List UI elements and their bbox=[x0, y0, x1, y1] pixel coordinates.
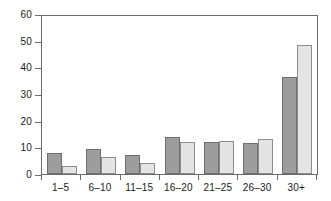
bar-group bbox=[243, 16, 273, 174]
y-axis-label-group: 0102030405060 bbox=[0, 0, 38, 201]
x-axis-tick-mark bbox=[41, 175, 42, 180]
y-axis-tick-label: 20 bbox=[20, 117, 32, 127]
y-axis-tick-label: 0 bbox=[26, 170, 32, 180]
bar-series-1 bbox=[165, 137, 180, 174]
x-axis-tick-group bbox=[41, 175, 318, 181]
x-axis-tick-mark bbox=[237, 175, 238, 180]
x-axis-label-group: 1–56–1011–1516–2021–2526–3030+ bbox=[41, 182, 318, 198]
bar-series-1 bbox=[86, 149, 101, 174]
bar-series-2 bbox=[180, 142, 195, 174]
x-axis-tick-mark bbox=[198, 175, 199, 180]
bar-series-2 bbox=[62, 166, 77, 174]
bar-group bbox=[282, 16, 312, 174]
y-axis-tick-label: 30 bbox=[20, 90, 32, 100]
x-axis-tick-label: 6–10 bbox=[80, 182, 119, 194]
bar-series-2 bbox=[258, 139, 273, 174]
x-axis-tick-label: 21–25 bbox=[198, 182, 237, 194]
bar-group bbox=[165, 16, 195, 174]
bar-series-1 bbox=[47, 153, 62, 174]
bar-group bbox=[204, 16, 234, 174]
bar-series-2 bbox=[140, 163, 155, 174]
x-axis-tick-label: 26–30 bbox=[237, 182, 276, 194]
plot-area bbox=[41, 15, 318, 175]
bar-series-2 bbox=[219, 141, 234, 174]
bar-series-1 bbox=[204, 142, 219, 174]
y-axis-tick-label: 60 bbox=[20, 10, 32, 20]
x-axis-tick-mark bbox=[277, 175, 278, 180]
x-axis-tick-label: 11–15 bbox=[120, 182, 159, 194]
y-axis-tick-label: 40 bbox=[20, 63, 32, 73]
bar-series-1 bbox=[243, 143, 258, 174]
x-axis-tick-label: 16–20 bbox=[159, 182, 198, 194]
bar-group bbox=[125, 16, 155, 174]
x-axis-tick-mark bbox=[316, 175, 317, 180]
bar-series-1 bbox=[282, 77, 297, 174]
bar-series-2 bbox=[297, 45, 312, 174]
y-axis-tick-label: 50 bbox=[20, 37, 32, 47]
x-axis-tick-mark bbox=[159, 175, 160, 180]
bar-chart-figure: 0102030405060 1–56–1011–1516–2021–2526–3… bbox=[0, 0, 331, 201]
y-axis-tick-label: 10 bbox=[20, 143, 32, 153]
bar-series-2 bbox=[101, 157, 116, 174]
x-axis-tick-label: 30+ bbox=[277, 182, 316, 194]
bar-series-1 bbox=[125, 155, 140, 174]
bars-layer bbox=[42, 16, 317, 174]
x-axis-tick-mark bbox=[120, 175, 121, 180]
x-axis-tick-mark bbox=[80, 175, 81, 180]
bar-group bbox=[86, 16, 116, 174]
x-axis-tick-label: 1–5 bbox=[41, 182, 80, 194]
bar-group bbox=[47, 16, 77, 174]
